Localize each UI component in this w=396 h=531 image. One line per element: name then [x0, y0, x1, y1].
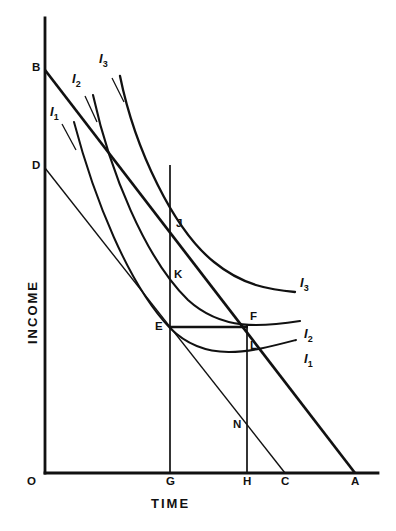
label-leaders-group — [62, 78, 124, 150]
point-label-e: E — [155, 321, 163, 333]
figure-canvas — [0, 0, 396, 531]
indifference-curve-figure: INCOME TIME O G H C A B D J K E F L N I1… — [0, 0, 396, 531]
curve-label-i1-top: I1 — [50, 105, 59, 122]
curve-label-i2-top: I2 — [72, 72, 81, 89]
axis-tick-g: G — [166, 476, 175, 488]
point-label-j: J — [176, 218, 182, 230]
curve-label-i2-right: I2 — [304, 327, 313, 344]
indifference-curve-i1 — [74, 122, 296, 352]
budget-lines-group — [45, 70, 355, 473]
curve-label-i2-top-sub: 2 — [76, 79, 81, 89]
axis-tick-h: H — [243, 476, 251, 488]
point-label-k: K — [174, 269, 182, 281]
point-label-f: F — [250, 311, 257, 323]
axis-tick-c: C — [281, 476, 289, 488]
leader-i1 — [62, 124, 76, 150]
curve-label-i3-top: I3 — [99, 52, 108, 69]
point-label-d: D — [32, 160, 40, 172]
indifference-curves-group — [74, 76, 300, 352]
curve-label-i3-top-sub: 3 — [103, 59, 108, 69]
curve-label-i3-right-sub: 3 — [304, 283, 309, 293]
indifference-curve-i2 — [93, 95, 300, 325]
curve-label-i3-right: I3 — [300, 276, 309, 293]
budget-line-ba — [45, 70, 355, 473]
point-label-l: L — [250, 340, 257, 352]
point-label-b: B — [32, 62, 40, 74]
curve-label-i1-right: I1 — [304, 352, 313, 369]
indifference-curve-i3 — [120, 76, 295, 292]
curve-label-i1-top-sub: 1 — [54, 112, 59, 122]
y-axis-label: INCOME — [26, 280, 39, 344]
curve-label-i1-right-sub: 1 — [308, 359, 313, 369]
axis-tick-o: O — [27, 476, 36, 488]
x-axis-label: TIME — [151, 497, 190, 510]
budget-line-dc — [45, 168, 285, 473]
point-label-n: N — [233, 419, 241, 431]
axes-group — [45, 18, 378, 473]
curve-label-i2-right-sub: 2 — [308, 334, 313, 344]
axis-tick-a: A — [351, 476, 359, 488]
